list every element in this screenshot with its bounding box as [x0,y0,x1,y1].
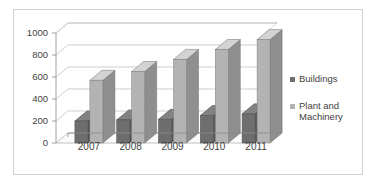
bar-side-face [187,49,199,143]
legend-label-plant-and-machinery-line2: Machinery [299,111,343,122]
bar-side-face [228,40,240,144]
y-tick-label-1000: 1000 [27,27,48,38]
bar-front-face [90,80,103,143]
y-tick-label-600: 600 [32,71,48,82]
y-axis-tick-labels: 1000 800 600 400 200 0 [27,27,48,148]
x-axis-label-2011: 2011 [245,141,267,152]
bar-front-face [200,116,213,144]
bar-side-face [103,70,115,143]
bar-front-face [174,59,187,143]
chart-figure: 1000 800 600 400 200 0 20072008200920102… [0,0,381,189]
bar-plant-and-machinery-2010 [215,40,240,144]
plot-depth-top-edge [56,23,277,33]
bar-front-face [132,72,145,144]
bar-plant-and-machinery-2007 [90,70,115,143]
bar-front-face [159,119,172,143]
legend-marker-buildings [290,77,295,82]
legend-label-buildings: Buildings [299,73,338,84]
bar-front-face [242,114,255,143]
y-tick-label-400: 400 [32,93,48,104]
bar-plant-and-machinery-2009 [174,49,199,143]
bar-front-face [257,40,270,143]
legend-label-plant-and-machinery-line1: Plant and [299,100,339,111]
bar-plant-and-machinery-2008 [132,62,157,144]
y-tick-label-200: 200 [32,115,48,126]
y-tick-label-800: 800 [32,49,48,60]
x-axis-label-2008: 2008 [120,141,143,152]
bar-chart: 1000 800 600 400 200 0 20072008200920102… [0,0,381,189]
bar-side-face [145,62,157,144]
x-axis-label-2007: 2007 [78,141,101,152]
y-tick-label-0: 0 [43,137,48,148]
x-axis-label-2009: 2009 [161,141,184,152]
bar-plant-and-machinery-2011 [257,30,282,143]
bar-side-face [270,30,282,143]
chart-legend: Buildings Plant and Machinery [290,73,343,122]
y-axis [52,33,56,143]
legend-marker-plant-and-machinery [290,104,295,109]
x-axis-label-2010: 2010 [203,141,226,152]
bar-front-face [75,121,88,143]
bar-front-face [215,50,228,144]
bar-front-face [117,120,130,143]
